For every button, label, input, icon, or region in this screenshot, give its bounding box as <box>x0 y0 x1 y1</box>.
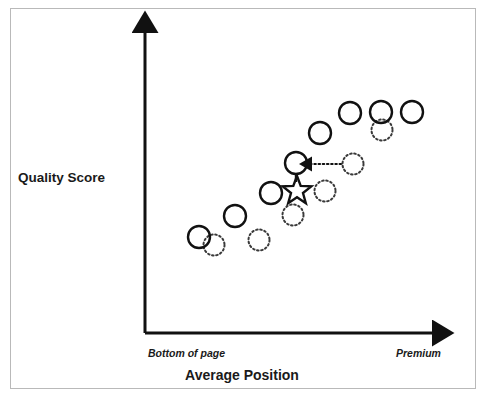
previous-position-point <box>283 205 304 226</box>
current-position-markers <box>188 101 423 248</box>
y-axis-title: Quality Score <box>18 170 105 185</box>
x-axis-tick-right-label: Premium <box>396 347 441 359</box>
figure-root: Quality Score Average Position Bottom of… <box>0 0 484 404</box>
current-position-point <box>339 102 361 124</box>
current-position-point <box>260 182 282 204</box>
current-position-point <box>309 122 331 144</box>
current-position-point <box>224 205 246 227</box>
previous-position-markers <box>204 120 393 256</box>
x-axis-tick-left-label: Bottom of page <box>148 347 225 359</box>
x-axis-title: Average Position <box>0 367 484 383</box>
current-position-point <box>285 152 307 174</box>
current-position-point <box>401 101 423 123</box>
previous-position-point <box>315 181 336 202</box>
axis-lines <box>145 30 435 333</box>
previous-position-point <box>343 154 364 175</box>
scatter-plot-canvas <box>0 0 484 404</box>
previous-position-point <box>249 230 270 251</box>
